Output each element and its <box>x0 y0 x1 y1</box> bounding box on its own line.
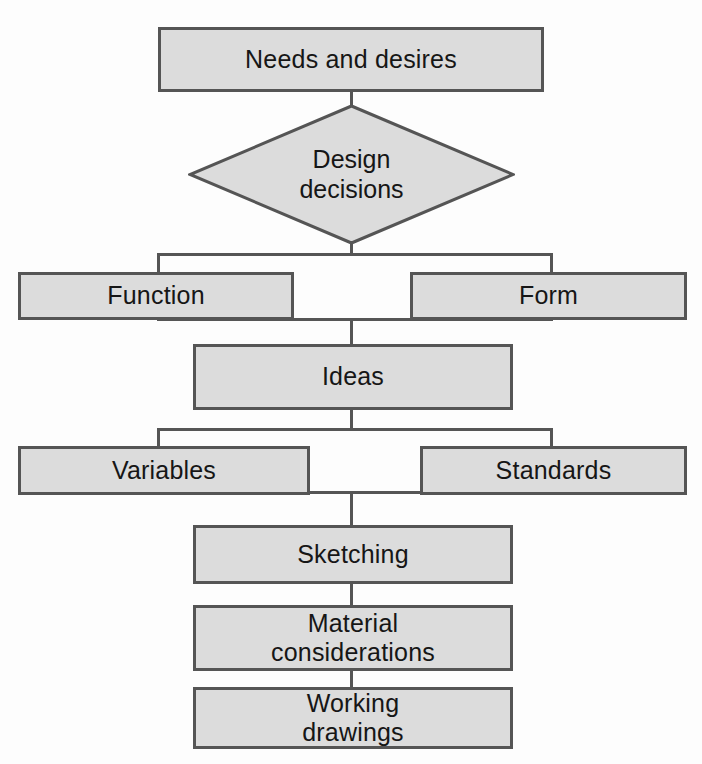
connector-split-bar-bottom <box>157 428 553 431</box>
connector-merge-to-ideas <box>350 318 353 346</box>
diamond-shape <box>188 104 515 245</box>
node-standards: Standards <box>420 446 687 495</box>
material-line-1: Material <box>271 609 435 639</box>
node-working-drawings: Working drawings <box>193 687 513 749</box>
node-variables-label: Variables <box>106 456 222 486</box>
connector-split-bar-top <box>157 253 553 256</box>
node-material-considerations-label: Material considerations <box>265 609 441 668</box>
node-form: Form <box>410 272 687 320</box>
node-needs-and-desires: Needs and desires <box>158 27 544 92</box>
working-line-1: Working <box>302 689 404 719</box>
node-design-decisions: Design decisions <box>188 104 515 245</box>
node-ideas-label: Ideas <box>316 362 390 392</box>
node-sketching-label: Sketching <box>291 540 415 570</box>
connector-merge-to-sketching <box>350 491 353 525</box>
node-needs-and-desires-label: Needs and desires <box>239 45 463 75</box>
node-function: Function <box>18 272 294 320</box>
material-line-2: considerations <box>271 638 435 668</box>
node-variables: Variables <box>18 446 310 495</box>
node-sketching: Sketching <box>193 525 513 584</box>
connector-sketching-to-material <box>350 584 353 606</box>
node-standards-label: Standards <box>490 456 618 486</box>
node-ideas: Ideas <box>193 344 513 410</box>
connector-ideas-to-split <box>350 410 353 430</box>
node-material-considerations: Material considerations <box>193 605 513 671</box>
node-form-label: Form <box>513 281 584 311</box>
node-function-label: Function <box>101 281 211 311</box>
working-line-2: drawings <box>302 718 404 748</box>
node-working-drawings-label: Working drawings <box>296 689 410 748</box>
flowchart-canvas: Needs and desires Design decisions Funct… <box>0 0 702 764</box>
